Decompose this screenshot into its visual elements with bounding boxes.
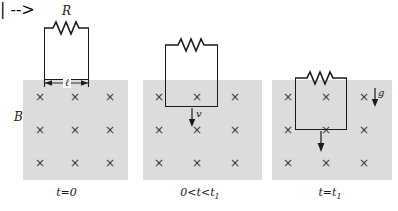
field-x-mark: × xyxy=(153,124,165,136)
resistance-label: R xyxy=(62,4,71,18)
panel-fully-inside: × × × × × × × × × g t=t1 xyxy=(267,0,398,211)
motion-arrow xyxy=(316,131,326,153)
gravity-label: g xyxy=(378,87,384,98)
field-x-mark: × xyxy=(282,124,294,136)
physics-figure: × × × × × × × × × B R | --> ℓ t=0 xyxy=(0,0,398,211)
field-x-mark: × xyxy=(104,91,116,103)
field-x-mark: × xyxy=(358,124,370,136)
field-x-mark: × xyxy=(320,157,332,169)
field-x-mark: × xyxy=(282,91,294,103)
panel-caption: t=0 xyxy=(0,186,133,201)
velocity-label: v xyxy=(196,108,202,119)
field-x-mark: × xyxy=(229,91,241,103)
length-label: ℓ xyxy=(63,77,71,88)
field-x-mark: × xyxy=(191,157,203,169)
field-x-mark: × xyxy=(34,157,46,169)
field-x-mark: × xyxy=(229,124,241,136)
conducting-loop xyxy=(165,45,218,107)
field-x-mark: × xyxy=(69,157,81,169)
field-x-mark: × xyxy=(229,157,241,169)
panel-caption: t=t1 xyxy=(267,186,393,201)
magnetic-field-label: B xyxy=(14,110,23,124)
panel-caption: 0<t<t1 xyxy=(133,186,267,201)
field-x-mark: × xyxy=(69,124,81,136)
panel-t-equals-0: × × × × × × × × × B R | --> ℓ t=0 xyxy=(0,0,133,211)
field-x-mark: × xyxy=(153,91,165,103)
panel-partial-entry: × × × × × × × × × v 0<t<t1 xyxy=(133,0,267,211)
field-x-mark: × xyxy=(282,157,294,169)
resistor-icon xyxy=(165,37,219,53)
field-x-mark: × xyxy=(34,91,46,103)
field-x-mark: × xyxy=(358,91,370,103)
resistor-icon xyxy=(295,70,348,86)
field-x-mark: × xyxy=(104,124,116,136)
resistor-icon xyxy=(44,20,90,36)
field-x-mark: × xyxy=(69,91,81,103)
field-x-mark: × xyxy=(104,157,116,169)
field-x-mark: × xyxy=(153,157,165,169)
field-x-mark: × xyxy=(358,157,370,169)
field-x-mark: × xyxy=(34,124,46,136)
